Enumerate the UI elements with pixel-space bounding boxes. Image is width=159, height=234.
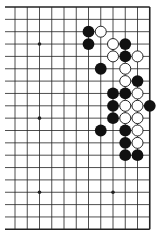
star-point-icon [38, 116, 42, 120]
black-stone-icon [119, 137, 131, 149]
black-stone-icon [119, 125, 131, 137]
white-stone-icon [120, 113, 131, 124]
go-board-diagram [0, 0, 159, 234]
white-stone-icon [108, 51, 119, 62]
go-board [0, 0, 159, 234]
black-stone-icon [119, 38, 131, 50]
white-stone-icon [120, 63, 131, 74]
white-stone-icon [132, 113, 143, 124]
white-stone-icon [132, 51, 143, 62]
black-stone-icon [83, 26, 95, 38]
black-stone-icon [83, 38, 95, 50]
white-stone-icon [120, 76, 131, 87]
white-stone-icon [132, 137, 143, 148]
star-point-icon [111, 190, 115, 194]
black-stone-icon [119, 88, 131, 100]
white-stone-icon [132, 125, 143, 136]
star-point-icon [38, 42, 42, 46]
black-stone-icon [107, 100, 119, 112]
black-stone-icon [119, 149, 131, 161]
white-stone-icon [108, 39, 119, 50]
star-point-icon [38, 190, 42, 194]
white-stone-icon [95, 26, 106, 37]
black-stone-icon [95, 125, 107, 137]
black-stone-icon [132, 149, 144, 161]
black-stone-icon [144, 100, 156, 112]
black-stone-icon [107, 88, 119, 100]
white-stone-icon [132, 100, 143, 111]
white-stone-icon [132, 88, 143, 99]
black-stone-icon [107, 112, 119, 124]
black-stone-icon [132, 75, 144, 87]
white-stone-icon [120, 100, 131, 111]
black-stone-icon [119, 51, 131, 63]
black-stone-icon [95, 63, 107, 75]
